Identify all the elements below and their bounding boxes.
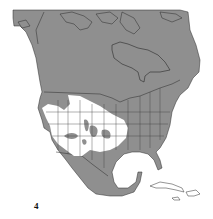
hispaniola [186,190,200,196]
jamaica [172,197,180,200]
range-map [0,0,213,219]
land-north-america [13,10,200,196]
figure-label: 4 [34,201,39,211]
cuba [150,182,184,192]
